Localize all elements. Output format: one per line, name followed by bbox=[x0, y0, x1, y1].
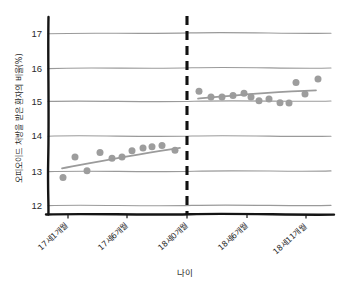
y-tick-label-16: 16 bbox=[31, 63, 42, 74]
x-tick-label-1: 17세6개월 bbox=[96, 221, 130, 253]
x-tick-label-0: 17세1개월 bbox=[36, 221, 70, 253]
data-point bbox=[196, 88, 203, 95]
y-tick-label-13: 13 bbox=[31, 166, 42, 177]
y-tick-label-12: 12 bbox=[31, 200, 42, 211]
gridline-17 bbox=[48, 33, 331, 34]
gridline-16 bbox=[48, 67, 331, 68]
x-tick-labels: 17세1개월 17세6개월 18세0개월 18세6개월 18세11개월 bbox=[36, 221, 308, 257]
data-point bbox=[315, 76, 322, 83]
y-tick-labels: 17 16 15 14 13 12 bbox=[31, 28, 42, 211]
data-point bbox=[60, 174, 67, 181]
data-point bbox=[286, 100, 293, 107]
data-point bbox=[129, 147, 136, 154]
series-before-cutoff-points bbox=[60, 142, 179, 181]
data-point bbox=[84, 167, 91, 174]
x-tick-label-3: 18세6개월 bbox=[216, 221, 250, 253]
opioid-prescription-chart: 17 16 15 14 13 12 오피오이드 처방을 받은 환자의 비율(%) bbox=[0, 0, 344, 288]
data-point bbox=[97, 149, 104, 156]
x-tick-label-2: 18세0개월 bbox=[156, 221, 190, 253]
trend-line-before-cutoff bbox=[62, 148, 180, 169]
x-tick-label-4: 18세11개월 bbox=[271, 221, 308, 256]
trend-line-after-cutoff bbox=[198, 90, 316, 98]
data-point bbox=[277, 99, 284, 106]
data-point bbox=[241, 90, 248, 97]
y-tick-label-15: 15 bbox=[31, 96, 42, 107]
data-point bbox=[293, 79, 300, 86]
x-axis-spine bbox=[46, 214, 334, 215]
data-point bbox=[72, 154, 79, 161]
data-point bbox=[266, 96, 273, 103]
y-tick-label-17: 17 bbox=[31, 28, 42, 39]
gridline-14 bbox=[48, 136, 331, 137]
data-point bbox=[159, 142, 166, 149]
chart-canvas: 17 16 15 14 13 12 오피오이드 처방을 받은 환자의 비율(%) bbox=[0, 0, 344, 288]
y-axis-title: 오피오이드 처방을 받은 환자의 비율(%) bbox=[14, 53, 24, 182]
gridlines bbox=[48, 33, 331, 206]
data-point bbox=[256, 97, 263, 104]
x-axis-title: 나이 bbox=[177, 268, 193, 278]
gridline-12 bbox=[48, 205, 331, 206]
y-axis-spine bbox=[48, 17, 49, 215]
data-point bbox=[140, 145, 147, 152]
data-point bbox=[149, 143, 156, 150]
y-tick-label-14: 14 bbox=[31, 130, 42, 141]
